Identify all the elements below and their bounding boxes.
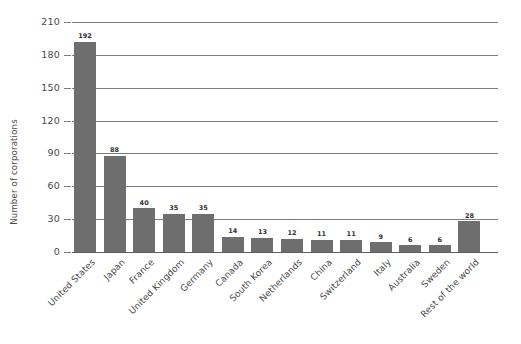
bar-chart: Number of corporations 03060901201501802… bbox=[0, 0, 521, 344]
y-axis-tick-mark bbox=[64, 88, 71, 89]
bar bbox=[429, 245, 451, 252]
bar bbox=[133, 208, 155, 252]
x-axis-tick-label: United Kingdom bbox=[127, 257, 186, 316]
bar bbox=[399, 245, 421, 252]
y-axis-tick-mark bbox=[64, 22, 71, 23]
bar-slot: 9 bbox=[370, 22, 392, 252]
bar bbox=[74, 42, 96, 252]
x-axis-tick-label: Switzerland bbox=[318, 257, 363, 302]
bar-slot: 40 bbox=[133, 22, 155, 252]
bar-slot: 11 bbox=[311, 22, 333, 252]
bar-value-label: 28 bbox=[465, 213, 474, 220]
bar-value-label: 13 bbox=[258, 229, 267, 236]
y-axis-tick-label: 120 bbox=[41, 116, 60, 126]
bar-value-label: 9 bbox=[378, 234, 383, 241]
bar-value-label: 6 bbox=[408, 237, 413, 244]
y-axis-tick-label: 60 bbox=[48, 181, 61, 191]
x-axis-tick-label: Canada bbox=[213, 257, 245, 289]
bar-slot: 35 bbox=[163, 22, 185, 252]
y-axis-tick-label: 90 bbox=[48, 148, 61, 158]
bar bbox=[281, 239, 303, 252]
bar-value-label: 88 bbox=[110, 147, 119, 154]
bar-slot: 35 bbox=[192, 22, 214, 252]
bar-value-label: 11 bbox=[347, 231, 356, 238]
bar bbox=[222, 237, 244, 252]
bar-slot: 11 bbox=[340, 22, 362, 252]
y-axis-tick-label: 210 bbox=[41, 17, 60, 27]
plot-area: 19288403535141312111196628 bbox=[72, 22, 498, 252]
y-axis-tick-mark bbox=[64, 186, 71, 187]
x-axis-tick-label: China bbox=[308, 257, 334, 283]
x-axis-tick-label: South Korea bbox=[228, 257, 274, 303]
bar-value-label: 35 bbox=[199, 205, 208, 212]
y-axis-tick-label: 30 bbox=[48, 214, 61, 224]
y-axis-tick-label: 150 bbox=[41, 83, 60, 93]
bar-slot: 13 bbox=[251, 22, 273, 252]
x-axis-tick-label: United States bbox=[46, 257, 97, 308]
bar-value-label: 14 bbox=[228, 228, 237, 235]
bar bbox=[340, 240, 362, 252]
bar bbox=[311, 240, 333, 252]
bar-slot: 14 bbox=[222, 22, 244, 252]
x-axis-tick-label: Italy bbox=[372, 257, 393, 278]
y-axis-tick-mark bbox=[64, 252, 71, 253]
bar bbox=[104, 156, 126, 252]
bar bbox=[163, 214, 185, 252]
y-axis-tick-mark bbox=[64, 153, 71, 154]
y-axis-tick-mark bbox=[64, 121, 71, 122]
bar-slot: 6 bbox=[429, 22, 451, 252]
y-axis-tick-mark bbox=[64, 219, 71, 220]
bar bbox=[458, 221, 480, 252]
y-axis-tick-label: 0 bbox=[54, 247, 60, 257]
bar-slot: 12 bbox=[281, 22, 303, 252]
x-axis-tick-label: Japan bbox=[101, 257, 126, 282]
x-axis-tick-label: Sweden bbox=[419, 257, 452, 290]
y-axis-title: Number of corporations bbox=[9, 119, 19, 225]
bar bbox=[370, 242, 392, 252]
x-axis-tick-label: Germany bbox=[179, 257, 216, 294]
bar-value-label: 35 bbox=[169, 205, 178, 212]
bar-value-label: 12 bbox=[287, 230, 296, 237]
bar-value-label: 192 bbox=[78, 33, 92, 40]
bar-slot: 192 bbox=[74, 22, 96, 252]
y-axis-tick-label: 180 bbox=[41, 50, 60, 60]
x-axis-tick-label: Australia bbox=[386, 257, 422, 293]
bar bbox=[251, 238, 273, 252]
bar-slot: 88 bbox=[104, 22, 126, 252]
gridline bbox=[72, 252, 498, 253]
x-axis-tick-label: Netherlands bbox=[257, 257, 304, 304]
bar-value-label: 6 bbox=[438, 237, 443, 244]
y-axis-tick-mark bbox=[64, 55, 71, 56]
bar-slot: 28 bbox=[458, 22, 480, 252]
x-axis-tick-label: France bbox=[128, 257, 157, 286]
bar-value-label: 40 bbox=[140, 200, 149, 207]
bar bbox=[192, 214, 214, 252]
bar-slot: 6 bbox=[399, 22, 421, 252]
bar-value-label: 11 bbox=[317, 231, 326, 238]
x-axis-tick-label: Rest of the world bbox=[419, 257, 481, 319]
